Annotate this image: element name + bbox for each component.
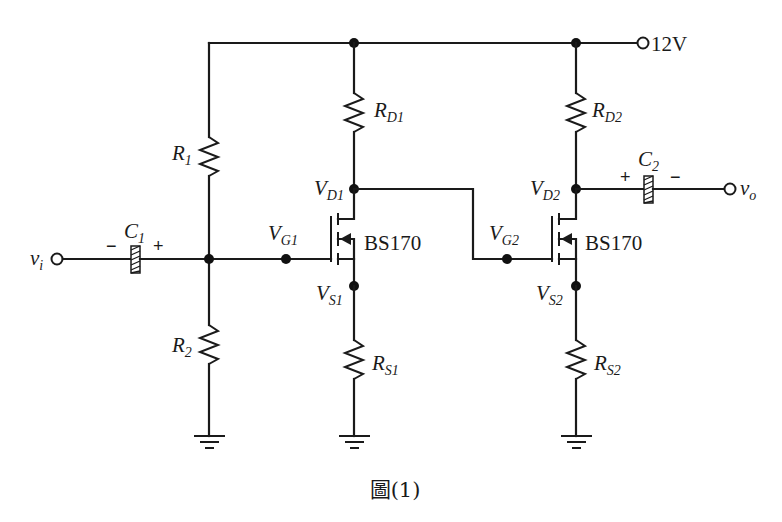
ground-icon: [339, 436, 370, 448]
figure-caption: 圖(1): [370, 478, 421, 502]
c1-label: C1: [124, 219, 145, 246]
vs2-label: VS2: [536, 281, 563, 308]
c1-plus-sign: +: [153, 236, 164, 256]
vg1-node: [281, 254, 291, 264]
resistor-r2: [200, 325, 218, 364]
gate-bias-junction: [204, 254, 214, 264]
ground-icon: [561, 436, 592, 448]
vg2-node: [502, 254, 512, 264]
output-terminal: [725, 184, 736, 195]
c2-label: C2: [638, 147, 659, 174]
supply-terminal: [638, 38, 649, 49]
output-stage: vo C2 + −: [576, 147, 756, 203]
output-label: vo: [740, 176, 756, 203]
m2-part-label: BS170: [585, 231, 642, 255]
ground-icon: [194, 436, 225, 448]
input-label: vi: [30, 246, 43, 273]
circuit-diagram: 12V R1 R2 vi C1 − + RD1: [0, 0, 782, 522]
stage-1: RD1 VD1 BS170 VG1 VS1 RS1: [268, 43, 421, 448]
rd2-label: RD2: [591, 98, 622, 125]
vd1-label: VD1: [314, 176, 344, 203]
resistor-rs1: [345, 340, 363, 379]
capacitor-c1: [131, 246, 140, 273]
bias-divider: R1 R2: [171, 43, 225, 448]
capacitor-c2: [644, 176, 653, 203]
vd2-label: VD2: [530, 176, 560, 203]
rs2-label: RS2: [593, 351, 621, 378]
resistor-rs2: [567, 340, 585, 379]
rd1-label: RD1: [373, 98, 404, 125]
resistor-rd2: [567, 93, 585, 132]
vg1-label: VG1: [268, 221, 298, 248]
supply-rail: 12V: [209, 32, 687, 56]
r1-label: R1: [171, 141, 192, 168]
vs1-label: VS1: [316, 281, 343, 308]
c1-minus-sign: −: [106, 236, 117, 256]
r2-label: R2: [171, 333, 192, 360]
resistor-r1: [200, 137, 218, 176]
input-terminal: [52, 254, 63, 265]
supply-label: 12V: [651, 32, 687, 56]
input-stage: vi C1 − +: [30, 219, 286, 273]
rs1-label: RS1: [371, 351, 399, 378]
stage-2: RD2 VD2 BS170 VG2 VS2 RS2: [489, 43, 642, 448]
c2-plus-sign: +: [620, 167, 631, 187]
m1-part-label: BS170: [364, 231, 421, 255]
c2-minus-sign: −: [670, 167, 681, 187]
resistor-rd1: [345, 93, 363, 132]
vg2-label: VG2: [489, 221, 519, 248]
